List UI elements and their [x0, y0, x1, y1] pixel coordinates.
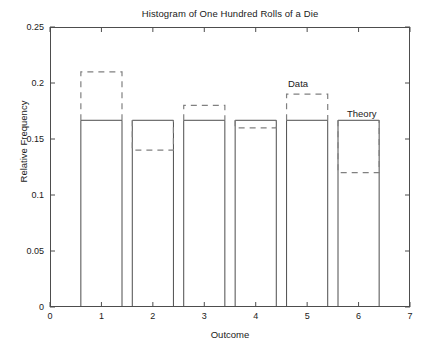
axis-ticks: [50, 27, 410, 307]
series-theory-bars: [81, 120, 379, 307]
figure-histogram: Histogram of One Hundred Rolls of a Die …: [0, 0, 440, 355]
x-tick-label: 4: [241, 311, 271, 321]
x-tick-label: 2: [138, 311, 168, 321]
x-tick-label: 3: [189, 311, 219, 321]
x-tick-label: 7: [395, 311, 425, 321]
y-axis-title: Relative Frequency: [18, 72, 29, 212]
annotation-data-label: Data: [288, 78, 308, 89]
x-tick-label: 6: [344, 311, 374, 321]
x-tick-label: 1: [86, 311, 116, 321]
x-axis-title: Outcome: [50, 329, 410, 340]
annotation-theory-label: Theory: [347, 108, 377, 119]
series-data-bars: [81, 72, 379, 173]
y-tick-label: 0.25: [4, 22, 44, 32]
chart-canvas: [0, 0, 440, 355]
x-tick-label: 0: [35, 311, 65, 321]
y-tick-label: 0.05: [4, 246, 44, 256]
x-tick-label: 5: [292, 311, 322, 321]
